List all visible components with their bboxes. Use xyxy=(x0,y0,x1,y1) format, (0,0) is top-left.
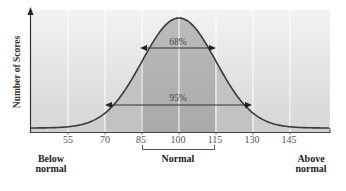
x-tick-100: 100 xyxy=(171,134,186,145)
x-tick-70: 70 xyxy=(100,134,110,145)
label-below-normal-line2: normal xyxy=(35,163,66,174)
x-tick-labels: 55 70 85 100 115 130 145 xyxy=(63,134,297,145)
x-tick-130: 130 xyxy=(245,134,260,145)
y-axis-label: Number of Scores xyxy=(12,35,22,108)
normal-distribution-chart: 68% 95% Number of Scores 55 70 85 100 11… xyxy=(0,0,346,191)
x-tick-115: 115 xyxy=(208,134,223,145)
x-tick-55: 55 xyxy=(63,134,73,145)
x-tick-85: 85 xyxy=(136,134,146,145)
normal-range-bracket xyxy=(143,145,215,150)
label-95-percent: 95% xyxy=(169,93,187,103)
label-68-percent: 68% xyxy=(169,37,187,47)
label-above-normal-line2: normal xyxy=(295,163,326,174)
x-tick-145: 145 xyxy=(282,134,297,145)
label-normal: Normal xyxy=(162,153,195,164)
